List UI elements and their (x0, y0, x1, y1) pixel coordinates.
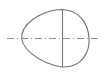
cam-diagram (0, 0, 103, 84)
diagram-canvas (0, 0, 103, 84)
